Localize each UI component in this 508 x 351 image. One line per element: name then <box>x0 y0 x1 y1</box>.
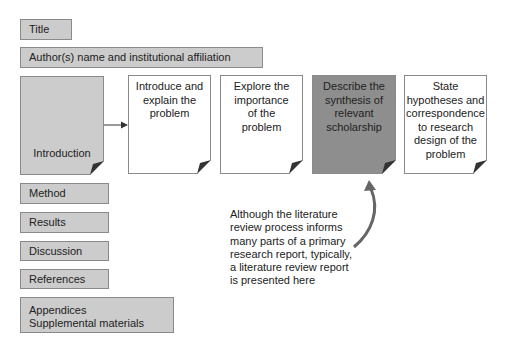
intro-arrow-icon <box>104 122 128 129</box>
curved-arrow-icon <box>354 180 376 247</box>
connector-arrows <box>0 0 508 351</box>
